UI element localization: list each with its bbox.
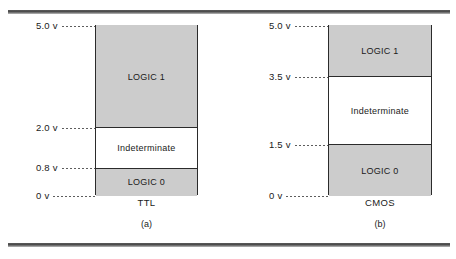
- band-indeterminate: Indeterminate: [96, 127, 197, 169]
- axis-tick-unit: v: [286, 20, 291, 31]
- axis-tick-value: 0: [36, 190, 41, 201]
- axis-tick-value: 2.0: [36, 122, 50, 133]
- voltage-band-box-b: LOGIC 1IndeterminateLOGIC 0: [328, 25, 432, 195]
- axis-tick-unit: v: [44, 190, 49, 201]
- band-logic-1: LOGIC 1: [96, 25, 197, 128]
- voltage-band-box-a: LOGIC 1IndeterminateLOGIC 0: [95, 25, 198, 195]
- axis-tick-0v: 0v: [269, 189, 328, 201]
- band-label: Indeterminate: [351, 106, 409, 116]
- band-label: Indeterminate: [117, 143, 175, 153]
- axis-tick-value: 0.8: [36, 162, 50, 173]
- band-label: LOGIC 0: [128, 177, 165, 187]
- axis-tick-1-5v: 1.5v: [269, 138, 328, 150]
- axis-tick-5-0v: 5.0v: [36, 19, 95, 31]
- axis-tick-2-0v: 2.0v: [36, 121, 95, 133]
- tick-leader-dots: [61, 168, 95, 169]
- axis-tick-3-5v: 3.5v: [269, 70, 328, 82]
- band-indeterminate: Indeterminate: [329, 76, 431, 145]
- tick-leader-dots: [61, 26, 95, 27]
- band-logic-0: LOGIC 0: [96, 168, 197, 196]
- axis-tick-unit: v: [286, 139, 291, 150]
- axis-tick-value: 0: [269, 190, 274, 201]
- axis-tick-unit: v: [286, 71, 291, 82]
- axis-tick-value: 5.0: [36, 20, 50, 31]
- axis-tick-value: 5.0: [269, 20, 283, 31]
- band-logic-0: LOGIC 0: [329, 144, 431, 196]
- axis-tick-value: 1.5: [269, 139, 283, 150]
- band-logic-1: LOGIC 1: [329, 25, 431, 77]
- axis-tick-unit: v: [53, 122, 58, 133]
- figure-page: { "figure": { "frame_color": "#4a4a4a", …: [0, 0, 456, 259]
- subfigure-caption-a: (a): [95, 219, 198, 229]
- tick-leader-dots: [294, 77, 328, 78]
- axis-tick-value: 3.5: [269, 71, 283, 82]
- axis-tick-5-0v: 5.0v: [269, 19, 328, 31]
- axis-tick-unit: v: [53, 162, 58, 173]
- axis-tick-unit: v: [53, 20, 58, 31]
- tick-leader-dots: [52, 196, 95, 197]
- axis-tick-0v: 0v: [36, 189, 95, 201]
- technology-label-b: CMOS: [328, 197, 432, 208]
- subfigure-caption-b: (b): [328, 219, 432, 229]
- band-label: LOGIC 1: [128, 72, 165, 82]
- panel-cmos: LOGIC 1IndeterminateLOGIC 05.0v3.5v1.5v0…: [228, 0, 456, 259]
- tick-leader-dots: [294, 145, 328, 146]
- axis-tick-0-8v: 0.8v: [36, 162, 95, 174]
- panel-ttl: LOGIC 1IndeterminateLOGIC 05.0v2.0v0.8v0…: [0, 0, 228, 259]
- band-label: LOGIC 1: [361, 46, 398, 56]
- tick-leader-dots: [294, 26, 328, 27]
- band-label: LOGIC 0: [361, 166, 398, 176]
- technology-label-a: TTL: [95, 197, 198, 208]
- axis-tick-unit: v: [277, 190, 282, 201]
- tick-leader-dots: [61, 128, 95, 129]
- tick-leader-dots: [285, 196, 328, 197]
